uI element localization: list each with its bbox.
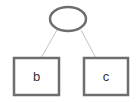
node-c-label: c xyxy=(103,69,110,84)
edge-root-to-c xyxy=(81,30,96,58)
root-node[interactable] xyxy=(50,7,86,31)
node-b[interactable]: b xyxy=(14,58,59,95)
edge-root-to-b xyxy=(41,30,57,58)
node-b-label: b xyxy=(33,69,40,84)
node-c[interactable]: c xyxy=(84,58,128,95)
tree-diagram: b c xyxy=(0,0,139,102)
